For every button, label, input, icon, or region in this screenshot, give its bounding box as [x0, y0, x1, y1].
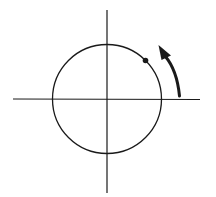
- point-on-circle: [143, 58, 149, 64]
- diagram-canvas: [0, 0, 216, 197]
